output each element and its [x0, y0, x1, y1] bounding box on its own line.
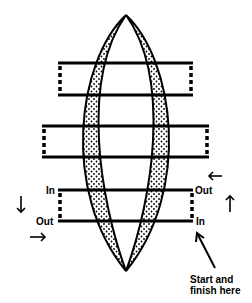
start-pointer-arrow-icon [196, 233, 215, 268]
label-in-right: In [196, 216, 205, 227]
band-bottom [58, 190, 193, 221]
start-finish-label-line1: Start and [190, 274, 233, 285]
arrow-right-icon [30, 233, 45, 241]
label-out-left: Out [36, 216, 54, 227]
band-top [58, 63, 193, 95]
band-middle [42, 126, 209, 157]
arrow-up-icon [226, 196, 234, 212]
lens-diagram: In Out Out In Start and finish here [0, 0, 252, 303]
label-out-right: Out [195, 185, 213, 196]
arrow-left-icon [209, 172, 222, 180]
label-in-left: In [46, 185, 55, 196]
right-lens-crescent [126, 15, 169, 271]
arrow-down-icon [17, 196, 25, 212]
start-finish-label-line2: finish here [190, 285, 241, 296]
left-lens-crescent [83, 15, 126, 271]
